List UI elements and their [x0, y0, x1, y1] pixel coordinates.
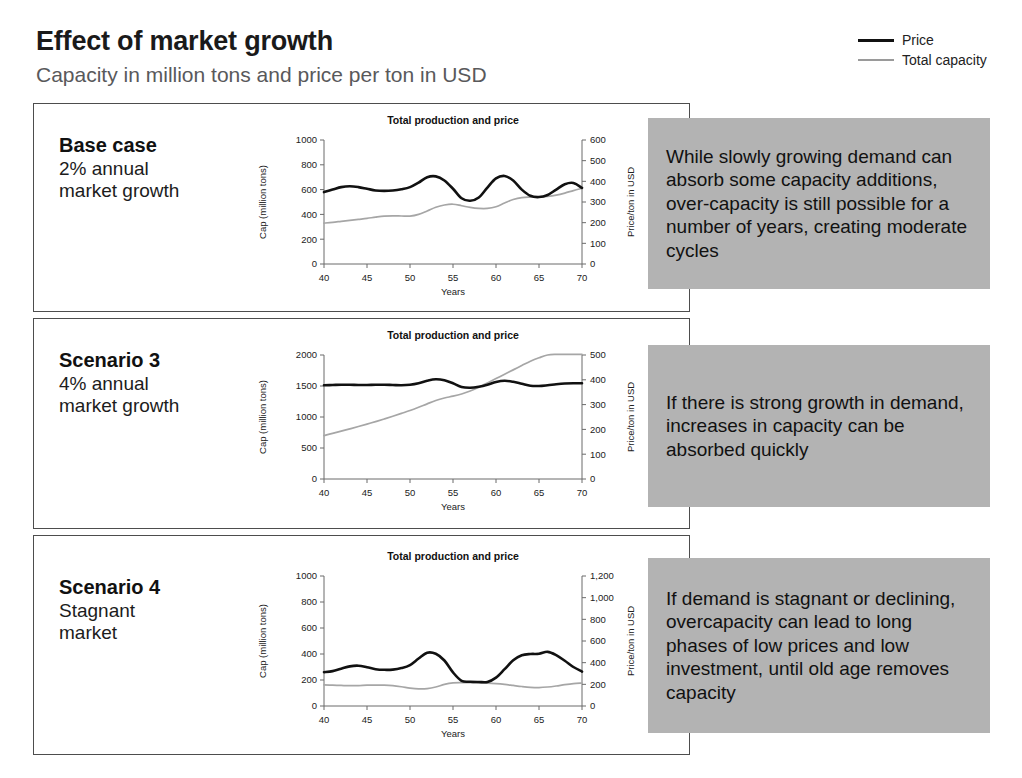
svg-text:600: 600	[301, 184, 317, 195]
chart-scenario-3: Total production and price05001000150020…	[252, 327, 672, 523]
svg-text:400: 400	[590, 374, 606, 385]
svg-text:0: 0	[590, 473, 595, 484]
svg-text:65: 65	[534, 487, 545, 498]
svg-text:70: 70	[577, 272, 588, 283]
svg-text:600: 600	[590, 134, 606, 145]
scenario-name: Scenario 3	[59, 349, 259, 373]
page-title: Effect of market growth	[36, 26, 333, 57]
svg-text:1000: 1000	[296, 411, 317, 422]
svg-text:1000: 1000	[296, 134, 317, 145]
svg-text:65: 65	[534, 272, 545, 283]
thin-gray-line-icon	[858, 55, 894, 65]
svg-text:200: 200	[301, 234, 317, 245]
svg-text:2000: 2000	[296, 349, 317, 360]
svg-text:100: 100	[590, 449, 606, 460]
legend-item-price: Price	[858, 30, 1018, 50]
svg-text:800: 800	[590, 614, 606, 625]
svg-text:60: 60	[491, 272, 502, 283]
svg-text:65: 65	[534, 714, 545, 725]
commentary-box-scenario-4: If demand is stagnant or declining, over…	[648, 558, 990, 733]
svg-text:200: 200	[590, 424, 606, 435]
scenario-description: Stagnantmarket	[59, 600, 259, 645]
svg-text:1000: 1000	[296, 570, 317, 581]
svg-text:60: 60	[491, 487, 502, 498]
svg-text:500: 500	[590, 155, 606, 166]
svg-text:400: 400	[301, 648, 317, 659]
scenario-panel-base-case: Base case 2% annualmarket growth Total p…	[33, 103, 690, 312]
scenario-label: Scenario 4 Stagnantmarket	[59, 576, 259, 645]
svg-text:200: 200	[301, 674, 317, 685]
scenario-label: Base case 2% annualmarket growth	[59, 134, 259, 203]
svg-text:300: 300	[590, 196, 606, 207]
svg-text:50: 50	[405, 272, 416, 283]
svg-text:45: 45	[362, 487, 373, 498]
svg-text:55: 55	[448, 487, 459, 498]
svg-text:60: 60	[491, 714, 502, 725]
svg-text:40: 40	[319, 487, 330, 498]
svg-text:800: 800	[301, 596, 317, 607]
scenario-label: Scenario 3 4% annualmarket growth	[59, 349, 259, 418]
svg-text:200: 200	[590, 217, 606, 228]
chart-base-case: Total production and price02004006008001…	[252, 112, 672, 308]
svg-text:0: 0	[312, 258, 317, 269]
svg-text:70: 70	[577, 487, 588, 498]
svg-text:0: 0	[312, 700, 317, 711]
page-subtitle: Capacity in million tons and price per t…	[36, 63, 487, 87]
svg-text:400: 400	[590, 657, 606, 668]
svg-text:400: 400	[590, 176, 606, 187]
commentary-text: If there is strong growth in demand, inc…	[666, 391, 972, 462]
svg-text:0: 0	[590, 700, 595, 711]
svg-text:55: 55	[448, 714, 459, 725]
thick-black-line-icon	[858, 35, 894, 45]
svg-text:Total production and price: Total production and price	[387, 114, 519, 126]
svg-text:1,200: 1,200	[590, 570, 614, 581]
svg-text:40: 40	[319, 714, 330, 725]
svg-text:Cap (million tons): Cap (million tons)	[257, 604, 268, 678]
commentary-box-scenario-3: If there is strong growth in demand, inc…	[648, 345, 990, 507]
svg-text:Total production and price: Total production and price	[387, 329, 519, 341]
svg-text:50: 50	[405, 714, 416, 725]
svg-text:Price/ton in USD: Price/ton in USD	[625, 382, 636, 452]
scenario-description: 4% annualmarket growth	[59, 373, 259, 418]
svg-text:45: 45	[362, 714, 373, 725]
svg-text:0: 0	[590, 258, 595, 269]
svg-text:200: 200	[590, 679, 606, 690]
chart-scenario-4: Total production and price02004006008001…	[252, 548, 672, 750]
legend-item-label: Total capacity	[894, 52, 987, 68]
scenario-panel-scenario-3: Scenario 3 4% annualmarket growth Total …	[33, 318, 690, 529]
scenario-name: Scenario 4	[59, 576, 259, 600]
svg-text:500: 500	[301, 442, 317, 453]
svg-text:300: 300	[590, 399, 606, 410]
svg-text:40: 40	[319, 272, 330, 283]
scenario-panel-scenario-4: Scenario 4 Stagnantmarket Total producti…	[33, 535, 690, 755]
chart-legend: Price Total capacity	[858, 30, 1018, 70]
svg-text:Years: Years	[441, 501, 465, 512]
svg-text:0: 0	[312, 473, 317, 484]
svg-text:400: 400	[301, 209, 317, 220]
svg-text:Price/ton in USD: Price/ton in USD	[625, 167, 636, 237]
svg-text:100: 100	[590, 238, 606, 249]
svg-text:600: 600	[590, 635, 606, 646]
commentary-text: If demand is stagnant or declining, over…	[666, 587, 972, 705]
svg-text:500: 500	[590, 349, 606, 360]
svg-text:Years: Years	[441, 728, 465, 739]
svg-text:Cap (million tons): Cap (million tons)	[257, 380, 268, 454]
scenario-description: 2% annualmarket growth	[59, 158, 259, 203]
commentary-text: While slowly growing demand can absorb s…	[666, 145, 972, 263]
svg-text:Price/ton in USD: Price/ton in USD	[625, 606, 636, 676]
scenario-name: Base case	[59, 134, 259, 158]
svg-text:600: 600	[301, 622, 317, 633]
legend-item-total-capacity: Total capacity	[858, 50, 1018, 70]
svg-text:50: 50	[405, 487, 416, 498]
svg-text:55: 55	[448, 272, 459, 283]
svg-text:Total production and price: Total production and price	[387, 550, 519, 562]
svg-text:70: 70	[577, 714, 588, 725]
svg-text:45: 45	[362, 272, 373, 283]
legend-item-label: Price	[894, 32, 934, 48]
svg-text:Cap (million tons): Cap (million tons)	[257, 165, 268, 239]
svg-text:1,000: 1,000	[590, 592, 614, 603]
svg-text:1500: 1500	[296, 380, 317, 391]
svg-text:800: 800	[301, 159, 317, 170]
commentary-box-base-case: While slowly growing demand can absorb s…	[648, 118, 990, 289]
svg-text:Years: Years	[441, 286, 465, 297]
